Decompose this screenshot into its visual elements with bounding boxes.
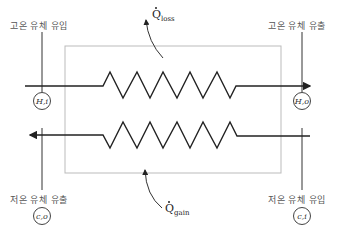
heat-loss-label: Qloss [152, 8, 175, 23]
cold-outlet-node: c,o [33, 207, 51, 225]
hot-inlet-label: 고온 유체 유입 [10, 19, 68, 32]
hot-outlet-label: 고온 유체 유출 [268, 19, 326, 32]
gain-subscript: gain [174, 209, 189, 217]
q-dot-symbol: Q [165, 202, 174, 215]
q-dot-symbol: Q [152, 8, 161, 21]
cold-inlet-node: c,i [293, 207, 311, 225]
loss-subscript: loss [161, 15, 175, 23]
hot-outlet-node: H,o [293, 92, 311, 110]
heat-gain-label: Qgain [165, 202, 189, 217]
heat-gain-arrow [145, 170, 162, 208]
heat-loss-arrow [146, 20, 163, 58]
cold-inlet-label: 저온 유체 유입 [268, 193, 326, 206]
control-volume-box [65, 46, 281, 173]
hot-stream-line [25, 72, 310, 98]
cold-outlet-label: 저온 유체 유출 [10, 193, 68, 206]
cold-stream-line [30, 122, 310, 148]
hot-inlet-node: H,i [33, 92, 51, 110]
